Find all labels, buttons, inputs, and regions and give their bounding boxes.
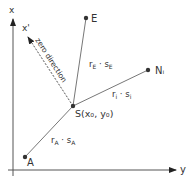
segment-SA-label: rA · sA [51,135,76,146]
zero-direction-line [28,37,73,106]
point-E-label: E [91,13,97,24]
diagram-canvas: x y x' zero direction E Nᵢ A S(x₀, y₀) r… [0,0,193,187]
point-S-label: S(x₀, y₀) [75,108,113,119]
point-N-label: Nᵢ [155,65,164,76]
segment-SN-label: ri · si [112,89,132,100]
x-prime-label: x' [22,23,30,33]
diagram-svg: x y x' zero direction E Nᵢ A S(x₀, y₀) r… [0,0,193,187]
segment-S-A [25,106,73,157]
segment-SE-label: rE · sE [89,59,113,70]
y-axis-label: y [180,164,186,175]
point-A-label: A [27,157,34,168]
point-N [146,68,150,72]
x-axis-label: x [9,5,15,15]
zero-direction-label: zero direction [33,36,69,84]
segment-S-N [73,70,148,106]
segment-S-E [73,18,86,106]
point-E [84,16,88,20]
